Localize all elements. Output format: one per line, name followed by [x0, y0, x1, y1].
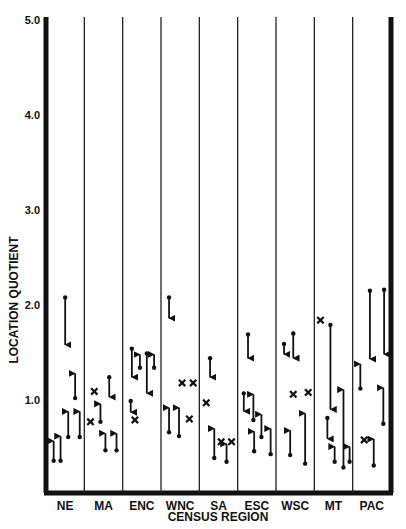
x-marker — [132, 417, 138, 423]
x-marker — [186, 416, 192, 422]
y-axis-title: LOCATION QUOTIENT — [7, 236, 21, 364]
x-axis-title: CENSUS REGION — [168, 510, 269, 524]
x-marker — [305, 389, 311, 395]
region-group-enc — [129, 347, 157, 424]
region-group-mt — [317, 317, 352, 470]
x-category-label: NE — [57, 499, 74, 513]
x-marker — [290, 391, 296, 397]
x-marker — [361, 437, 367, 443]
y-tick-label: 3.0 — [25, 204, 40, 216]
y-tick-label: 5.0 — [25, 14, 40, 26]
x-category-label: MA — [94, 499, 113, 513]
x-marker — [91, 388, 97, 394]
region-group-ne — [51, 295, 81, 463]
x-category-label: PAC — [360, 499, 385, 513]
region-group-wnc — [167, 295, 197, 438]
x-marker — [228, 439, 234, 445]
x-marker — [179, 380, 185, 386]
region-group-wsc — [282, 331, 312, 466]
location-quotient-chart: 1.02.03.04.05.0 NEMAENCWNCSAESCWSCMTPAC … — [0, 0, 406, 529]
region-group-pac — [358, 288, 386, 468]
x-marker — [218, 439, 224, 445]
y-tick-label: 1.0 — [25, 394, 40, 406]
y-tick-label: 4.0 — [25, 109, 40, 121]
x-marker — [190, 380, 196, 386]
x-category-label: MT — [325, 499, 343, 513]
x-category-label: WSC — [281, 499, 309, 513]
x-category-label: ENC — [129, 499, 155, 513]
x-marker — [317, 317, 323, 323]
data-marks — [51, 288, 386, 470]
region-group-ma — [87, 375, 118, 453]
x-marker — [87, 419, 93, 425]
x-marker — [203, 400, 209, 406]
region-group-sa — [203, 356, 235, 464]
region-group-esc — [242, 332, 273, 456]
plot-frame — [44, 17, 393, 493]
y-tick-label: 2.0 — [25, 299, 40, 311]
y-axis-ticks: 1.02.03.04.05.0 — [25, 14, 40, 406]
